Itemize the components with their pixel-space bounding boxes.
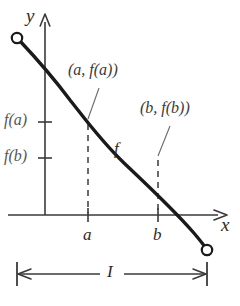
point-a-label: (a, f(a)) (68, 62, 118, 78)
interval-label: I (107, 263, 113, 280)
function-interval-figure: y x f(a) f(b) a b (a, f(a)) (b, f(b)) f … (0, 0, 240, 306)
y-tick-label-fb: f(b) (4, 148, 27, 164)
figure-canvas (0, 0, 240, 306)
open-endpoint-left (12, 33, 22, 43)
x-axis-label: x (221, 215, 229, 234)
open-endpoint-right (202, 245, 212, 255)
leader-line-b (158, 126, 170, 156)
y-axis-label: y (26, 6, 34, 25)
x-tick-label-a: a (83, 226, 92, 243)
leader-line-a (88, 88, 99, 119)
x-tick-label-b: b (153, 226, 162, 243)
point-b-label: (b, f(b)) (140, 100, 190, 116)
curve-label: f (114, 140, 119, 157)
y-tick-label-fa: f(a) (4, 112, 27, 128)
